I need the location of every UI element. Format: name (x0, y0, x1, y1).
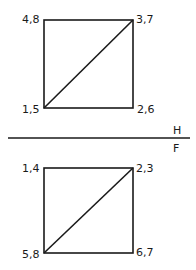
projection-diagram (0, 0, 196, 270)
front-view-label-top-right: 2,3 (136, 163, 154, 174)
top-view-label-top-left: 4,8 (22, 14, 40, 25)
front-view-label-bottom-left: 5,8 (22, 249, 40, 260)
top-view-label-bottom-right: 2,6 (137, 104, 155, 115)
top-view-label-top-right: 3,7 (136, 14, 154, 25)
divider-label-h: H (173, 125, 181, 136)
front-view-label-bottom-right: 6,7 (136, 247, 154, 258)
divider-label-f: F (173, 143, 179, 154)
front-view-diagonal (44, 168, 133, 253)
top-view-diagonal (44, 20, 133, 108)
front-view-label-top-left: 1,4 (22, 163, 40, 174)
top-view-label-bottom-left: 1,5 (22, 104, 40, 115)
